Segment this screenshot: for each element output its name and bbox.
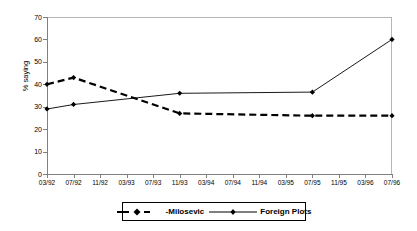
data-point-marker bbox=[71, 102, 76, 107]
solid-line-marker-icon bbox=[209, 207, 257, 217]
data-point-marker bbox=[310, 90, 315, 95]
data-point-marker bbox=[310, 113, 315, 118]
series-line bbox=[47, 39, 392, 109]
data-point-marker bbox=[177, 91, 182, 96]
data-point-marker bbox=[71, 75, 76, 80]
series-lines bbox=[0, 0, 417, 231]
data-point-marker bbox=[177, 111, 182, 116]
legend-entry[interactable]: Foreign Plots bbox=[209, 207, 311, 217]
chart-legend: -Milosevic Foreign Plots bbox=[122, 202, 306, 221]
dashed-line-marker-icon bbox=[117, 207, 163, 217]
legend-label-milosevic: -Milosevic bbox=[166, 207, 205, 216]
data-point-marker bbox=[44, 106, 49, 111]
data-point-marker bbox=[389, 37, 394, 42]
legend-entry[interactable]: -Milosevic bbox=[117, 207, 205, 217]
legend-label-foreign-plots: Foreign Plots bbox=[260, 207, 311, 216]
data-point-marker bbox=[389, 113, 394, 118]
line-chart: % saying 010203040506070 03/9207/9211/92… bbox=[0, 0, 417, 231]
data-point-marker bbox=[44, 82, 49, 87]
series-line bbox=[47, 78, 392, 116]
